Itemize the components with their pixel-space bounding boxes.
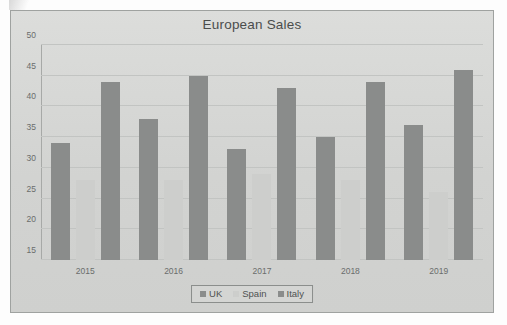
bar-uk-2017[interactable] xyxy=(227,149,246,260)
bar-uk-2018[interactable] xyxy=(316,137,335,260)
bar-italy-2016[interactable] xyxy=(189,76,208,260)
bar-spain-2017[interactable] xyxy=(252,174,271,260)
chart-title: European Sales xyxy=(11,17,493,32)
x-axis-tick-label: 2017 xyxy=(218,266,306,276)
bar-group: 2016 xyxy=(129,45,217,260)
bar-spain-2019[interactable] xyxy=(429,192,448,260)
legend-item-uk[interactable]: UK xyxy=(200,288,222,299)
bar-group: 2018 xyxy=(306,45,394,260)
legend-label: Spain xyxy=(242,288,266,299)
y-axis-tick-label: 35 xyxy=(27,122,36,132)
legend-label: Italy xyxy=(287,288,304,299)
legend-swatch-icon xyxy=(233,291,239,297)
bar-uk-2015[interactable] xyxy=(51,143,70,260)
legend-item-italy[interactable]: Italy xyxy=(278,288,304,299)
y-axis-tick-label: 25 xyxy=(27,184,36,194)
bar-uk-2016[interactable] xyxy=(139,119,158,260)
chart-legend[interactable]: UKSpainItaly xyxy=(191,285,313,303)
bar-spain-2015[interactable] xyxy=(76,180,95,260)
y-axis-tick-label: 15 xyxy=(27,245,36,255)
bar-spain-2016[interactable] xyxy=(164,180,183,260)
bar-uk-2019[interactable] xyxy=(404,125,423,260)
bar-italy-2015[interactable] xyxy=(101,82,120,260)
x-axis-tick-label: 2019 xyxy=(395,266,483,276)
x-axis-tick-label: 2018 xyxy=(306,266,394,276)
bar-group: 2017 xyxy=(218,45,306,260)
legend-item-spain[interactable]: Spain xyxy=(233,288,266,299)
bar-spain-2018[interactable] xyxy=(341,180,360,260)
x-axis-tick-label: 2016 xyxy=(129,266,217,276)
x-axis-tick-label: 2015 xyxy=(41,266,129,276)
bar-italy-2019[interactable] xyxy=(454,70,473,260)
bar-italy-2017[interactable] xyxy=(277,88,296,260)
y-axis-tick-label: 45 xyxy=(27,61,36,71)
plot-area: 1520253035404550 20152016201720182019 xyxy=(41,45,483,260)
y-axis-tick-label: 20 xyxy=(27,214,36,224)
bar-italy-2018[interactable] xyxy=(366,82,385,260)
y-axis-tick-label: 50 xyxy=(27,30,36,40)
chart-frame: European Sales 1520253035404550 20152016… xyxy=(10,10,494,313)
legend-swatch-icon xyxy=(278,291,284,297)
bar-group: 2019 xyxy=(395,45,483,260)
legend-swatch-icon xyxy=(200,291,206,297)
legend-label: UK xyxy=(209,288,222,299)
bar-group: 2015 xyxy=(41,45,129,260)
scan-artifact xyxy=(9,0,35,10)
y-axis-tick-label: 40 xyxy=(27,91,36,101)
y-axis-tick-label: 30 xyxy=(27,153,36,163)
chart-screenshot: European Sales 1520253035404550 20152016… xyxy=(0,0,507,325)
